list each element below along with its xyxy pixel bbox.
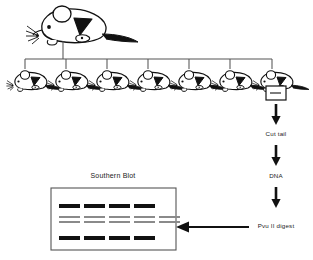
- blot-band: [134, 216, 155, 218]
- blot-band: [159, 221, 180, 223]
- blot-band: [59, 221, 80, 223]
- blot-band: [159, 216, 180, 218]
- arrow-down-to-cut-tail: [271, 104, 280, 125]
- southern-blot-bands: [51, 188, 176, 250]
- blot-band: [134, 204, 155, 208]
- southern-blot-title: Southern Blot: [90, 172, 135, 179]
- diagram-canvas: Southern Blot Cut tail DNA Pvu II digest: [0, 0, 313, 260]
- pedigree-bracket: [25, 41, 272, 69]
- arrow-down-to-digest: [271, 187, 280, 208]
- blot-band: [109, 216, 130, 218]
- blot-band: [109, 221, 130, 223]
- blot-band: [59, 236, 80, 240]
- step-label-pvu-digest: Pvu II digest: [258, 223, 295, 229]
- blot-band: [134, 236, 155, 240]
- blot-band: [134, 221, 155, 223]
- blot-band: [84, 221, 105, 223]
- blot-band: [109, 236, 130, 240]
- blot-band: [84, 216, 105, 218]
- step-label-cut-tail: Cut tail: [266, 131, 287, 137]
- arrow-down-to-dna: [271, 145, 280, 166]
- arrow-left-to-blot: [176, 222, 249, 233]
- founder-mouse-figure: [26, 6, 138, 45]
- tail-sample-box: [266, 86, 286, 100]
- blot-band: [84, 236, 105, 240]
- blot-band: [59, 216, 80, 218]
- blot-band: [109, 204, 130, 208]
- blot-band: [59, 204, 80, 208]
- step-label-dna: DNA: [269, 173, 283, 179]
- blot-band: [84, 204, 105, 208]
- offspring-mouse-figure-1: [6, 71, 63, 92]
